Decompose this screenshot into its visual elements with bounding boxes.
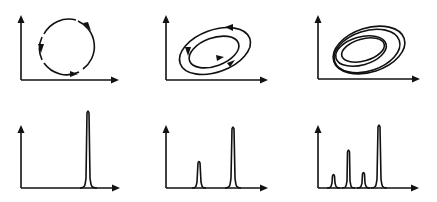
y-axis-arrow-icon [18,15,25,23]
panel-period-two [163,15,269,84]
panel-period-four [315,15,421,83]
panel-spectrum-quad [315,125,420,192]
direction-arrow-icon [83,22,91,31]
spectral-peak [192,162,206,189]
y-axis-arrow-icon [18,125,25,133]
axes [163,125,269,192]
trajectory-loop [328,21,405,80]
panel-spectrum-double [163,125,269,192]
figure-canvas [0,0,437,202]
spectral-peak [327,175,340,189]
x-axis-arrow-icon [411,185,419,192]
x-axis-arrow-icon [260,77,268,84]
axes [18,125,121,192]
y-axis-arrow-icon [315,15,322,23]
spectral-peak [342,150,355,188]
spectral-peak [225,127,241,188]
y-axis-arrow-icon [163,15,170,23]
spectral-peak [357,173,370,189]
trajectory-loop [40,19,95,75]
direction-arrow-icon [225,24,233,31]
y-axis-arrow-icon [163,125,170,133]
trajectory-inner-loop [185,30,243,74]
direction-arrow-icon [70,71,78,77]
axes [18,15,120,84]
direction-arrow-icon [216,55,224,61]
x-axis-arrow-icon [112,185,120,192]
x-axis-arrow-icon [412,76,420,83]
panel-spectrum-single [18,111,121,192]
axes [315,125,420,192]
x-axis-arrow-icon [111,77,119,84]
y-axis-arrow-icon [315,125,322,133]
x-axis-arrow-icon [260,185,268,192]
spectral-peak [371,125,387,188]
panel-limit-cycle [18,15,120,84]
trajectory-outer-loop [173,19,257,84]
spectral-peak [80,111,97,188]
